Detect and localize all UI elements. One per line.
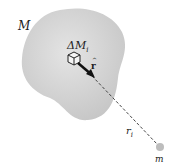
element-label-subscript: i — [86, 46, 88, 54]
gravitation-diagram: M ΔMi ^ r ri m — [0, 0, 177, 168]
distance-label-subscript: i — [131, 131, 133, 139]
unit-vector-label: r — [91, 62, 96, 71]
element-label: ΔMi — [67, 40, 88, 54]
point-mass — [156, 143, 164, 151]
element-label-text: ΔM — [67, 39, 86, 52]
point-mass-label: m — [155, 155, 164, 164]
distance-label: ri — [126, 126, 133, 139]
body-label: M — [18, 20, 30, 32]
